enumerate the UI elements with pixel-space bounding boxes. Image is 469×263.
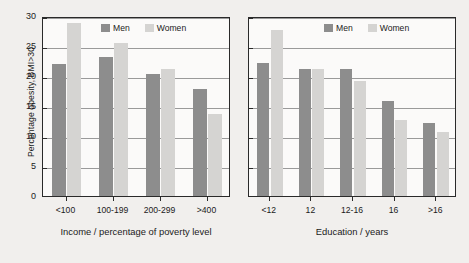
- x-axis-tick-mark: [394, 197, 395, 201]
- y-axis-tick-label: 30: [14, 11, 36, 21]
- x-axis-tick-label: 100-199: [97, 205, 129, 215]
- bar-men-12: [257, 63, 269, 196]
- legend-item-women: Women: [145, 23, 186, 33]
- x-axis-tick-label: 12: [306, 205, 316, 215]
- grouped-bar-chart-figure: Percentage obesity, BMI>30 051015202530 …: [0, 0, 469, 263]
- legend-label-women: Women: [157, 23, 186, 33]
- bar-men-200-299: [146, 74, 160, 196]
- x-axis-tick-mark: [269, 197, 270, 201]
- x-axis-tick-label: 12-16: [341, 205, 363, 215]
- legend-swatch-men-icon: [324, 24, 333, 32]
- legend-income: Men Women: [101, 23, 197, 33]
- bars-education: [249, 18, 455, 196]
- x-axis-tick-mark: [160, 197, 161, 201]
- y-axis-tick-label: 20: [14, 71, 36, 81]
- y-axis-tick-label: 15: [14, 101, 36, 111]
- bar-women-100: [67, 23, 81, 196]
- legend-label-men: Men: [336, 23, 353, 33]
- bar-men-100-199: [99, 57, 113, 196]
- bar-women-16: [437, 132, 449, 196]
- legend-label-women: Women: [380, 23, 409, 33]
- x-axis-tick-label: <100: [56, 205, 75, 215]
- legend-item-men: Men: [101, 23, 130, 33]
- x-axis-tick-label: 16: [389, 205, 399, 215]
- bar-women-16: [395, 120, 407, 196]
- x-axis-tick-mark: [310, 197, 311, 201]
- x-axis-title-income: Income / percentage of poverty level: [60, 226, 211, 237]
- bars-income: [43, 18, 229, 196]
- x-axis-tick-mark: [66, 197, 67, 201]
- legend-label-men: Men: [113, 23, 130, 33]
- legend-swatch-women-icon: [145, 24, 154, 32]
- panel-education: Men Women: [248, 17, 456, 197]
- panel-income: Men Women: [42, 17, 230, 197]
- bar-women-200-299: [161, 69, 175, 196]
- x-axis-tick-label: <12: [262, 205, 277, 215]
- x-axis-tick-label: >400: [197, 205, 216, 215]
- bar-men-16: [423, 123, 435, 196]
- bar-men-400: [193, 89, 207, 196]
- x-axis-tick-mark: [435, 197, 436, 201]
- x-axis-tick-mark: [352, 197, 353, 201]
- bar-men-12-16: [340, 69, 352, 196]
- x-axis-tick-mark: [207, 197, 208, 201]
- legend-education: Men Women: [324, 23, 420, 33]
- y-axis-tick-label: 5: [14, 161, 36, 171]
- bar-women-100-199: [114, 43, 128, 196]
- bar-women-12: [271, 30, 283, 196]
- bar-women-12: [312, 69, 324, 196]
- x-axis-title-education: Education / years: [316, 226, 388, 237]
- x-axis-tick-label: >16: [428, 205, 443, 215]
- bar-women-400: [208, 114, 222, 196]
- y-axis-tick-label: 0: [14, 191, 36, 201]
- legend-swatch-men-icon: [101, 24, 110, 32]
- legend-swatch-women-icon: [368, 24, 377, 32]
- legend-item-women: Women: [368, 23, 409, 33]
- x-axis-tick-mark: [113, 197, 114, 201]
- x-axis-tick-label: 200-299: [144, 205, 176, 215]
- bar-men-16: [382, 101, 394, 196]
- bar-men-100: [52, 64, 66, 196]
- y-axis-tick-label: 25: [14, 41, 36, 51]
- legend-item-men: Men: [324, 23, 353, 33]
- y-axis-tick-label: 10: [14, 131, 36, 141]
- bar-men-12: [299, 69, 311, 196]
- bar-women-12-16: [354, 81, 366, 196]
